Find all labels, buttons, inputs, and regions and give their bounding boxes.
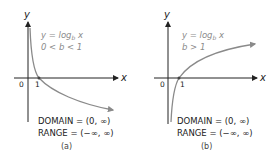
tick-label-b: 1 [180,80,185,89]
y-label-a: y [23,9,31,20]
origin-label-b: 0 [160,80,165,89]
panel-b: y x 0 1 y = logb x b > 1 DOMAIN = (0, ∞)… [154,9,266,151]
origin-label-a: 0 [19,80,24,89]
panel-a: y x 0 1 y = logb x 0 < b < 1 DOMAIN = (0… [14,9,127,151]
condition-a: 0 < b < 1 [41,42,82,52]
y-label-b: y [163,9,171,20]
caption-b: (b) [201,142,212,151]
x-label-b: x [259,72,266,83]
condition-b: b > 1 [182,42,205,52]
equation-a: y = logb x [40,30,84,41]
log-graphs-figure: y x 0 1 y = logb x 0 < b < 1 DOMAIN = (0… [0,0,272,165]
range-b: RANGE = (−∞, ∞) [177,128,253,138]
domain-a: DOMAIN = (0, ∞) [38,116,110,126]
tick-label-a: 1 [35,80,40,89]
equation-b: y = logb x [181,30,225,41]
range-a: RANGE = (−∞, ∞) [38,128,114,138]
x-label-a: x [120,72,127,83]
domain-b: DOMAIN = (0, ∞) [177,116,249,126]
caption-a: (a) [61,142,72,151]
